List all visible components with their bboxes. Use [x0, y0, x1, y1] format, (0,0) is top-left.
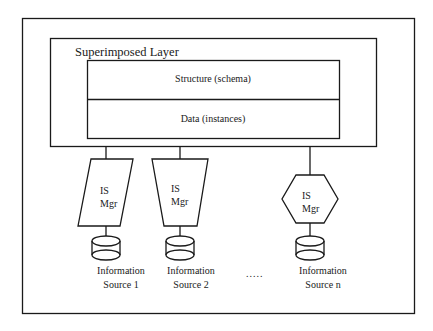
data-instances-label: Data (instances): [87, 113, 339, 124]
source-line2: Source 1: [86, 278, 156, 292]
is-mgr-line1: IS: [171, 182, 188, 195]
structure-schema-label: Structure (schema): [87, 73, 339, 84]
database-cylinder-icon: [296, 236, 324, 260]
source-line1: Information: [288, 264, 358, 278]
is-mgr-2-label: IS Mgr: [171, 182, 188, 208]
is-mgr-1-label: IS Mgr: [100, 184, 117, 210]
is-mgr-line2: Mgr: [171, 195, 188, 208]
ellipsis-more-sources: .....: [246, 268, 264, 279]
layer-title: Superimposed Layer: [75, 45, 179, 60]
source-line2: Source 2: [156, 278, 226, 292]
source-line2: Source n: [288, 278, 358, 292]
is-mgr-line2: Mgr: [100, 197, 117, 210]
information-source-1-label: Information Source 1: [86, 264, 156, 292]
source-line1: Information: [156, 264, 226, 278]
is-mgr-line1: IS: [100, 184, 117, 197]
database-cylinder-icon: [166, 236, 194, 260]
source-line1: Information: [86, 264, 156, 278]
information-source-2-label: Information Source 2: [156, 264, 226, 292]
database-cylinder-icon: [92, 236, 120, 260]
is-mgr-line1: IS: [302, 189, 319, 202]
is-mgr-n-label: IS Mgr: [302, 189, 319, 215]
is-mgr-line2: Mgr: [302, 202, 319, 215]
information-source-n-label: Information Source n: [288, 264, 358, 292]
